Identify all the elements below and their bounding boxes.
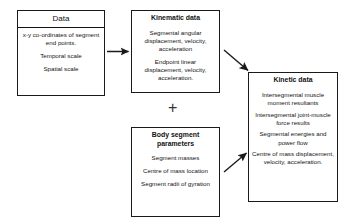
- box-data-entry-1: Temporal scale: [21, 52, 101, 60]
- box-data-entry-2: Spatial scale: [21, 65, 101, 73]
- box-body-segment-parameters-entry-0: Segment masses: [135, 154, 216, 162]
- box-body-segment-parameters-body: Segment masses Centre of mass location S…: [132, 151, 219, 191]
- box-data: Data x-y co-ordinates of segment end poi…: [17, 10, 105, 96]
- box-kinetic-data-entry-1: Intersegmental joint-muscle force result…: [252, 111, 334, 127]
- plus-operator: +: [168, 100, 177, 116]
- box-kinematic-data-entry-0: Segmental angular displacement, velocity…: [135, 29, 216, 54]
- box-kinetic-data-title: Kinetic data: [249, 73, 337, 88]
- box-kinetic-data-entry-2: Segmental energies and power flow: [252, 130, 334, 146]
- box-body-segment-parameters-entry-1: Centre of mass location: [135, 167, 216, 175]
- box-kinematic-data-entry-1: Endpoint linear displacement, velocity, …: [135, 58, 216, 83]
- box-data-body: x-y co-ordinates of segment end points. …: [18, 28, 104, 76]
- diagram-canvas: Data x-y co-ordinates of segment end poi…: [0, 0, 352, 224]
- box-kinematic-data-body: Segmental angular displacement, velocity…: [132, 26, 219, 86]
- arrow-body-segment-to-kinetic: [224, 153, 247, 172]
- box-kinematic-data: Kinematic data Segmental angular displac…: [131, 10, 220, 93]
- arrow-kinematic-to-kinetic: [224, 50, 248, 71]
- box-kinetic-data-entry-0: Intersegmental muscle moment resultants: [252, 91, 334, 107]
- box-body-segment-parameters-entry-2: Segment radii of gyration: [135, 180, 216, 188]
- box-body-segment-parameters-title: Body segment parameters: [132, 128, 219, 151]
- box-kinetic-data: Kinetic data Intersegmental muscle momen…: [248, 72, 338, 202]
- box-kinematic-data-title: Kinematic data: [132, 11, 219, 26]
- box-body-segment-parameters: Body segment parameters Segment masses C…: [131, 127, 220, 217]
- box-kinetic-data-entry-3: Centre of mass displacement, velocity, a…: [252, 150, 334, 166]
- box-data-title: Data: [18, 11, 104, 27]
- box-kinetic-data-body: Intersegmental muscle moment resultants …: [249, 88, 337, 174]
- box-data-entry-0: x-y co-ordinates of segment end points.: [21, 31, 101, 47]
